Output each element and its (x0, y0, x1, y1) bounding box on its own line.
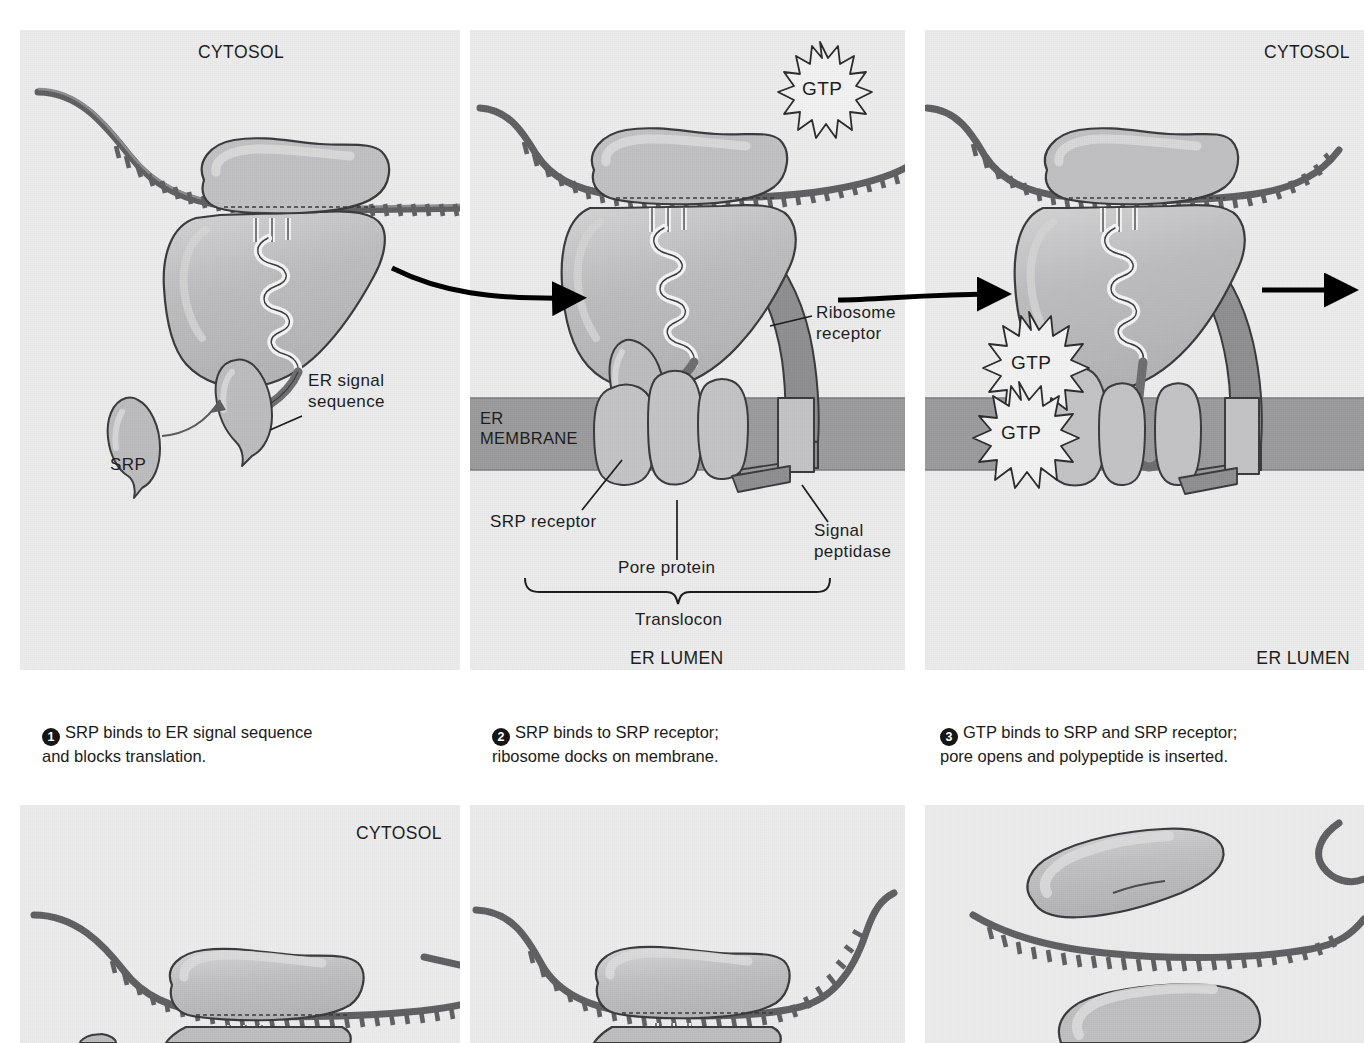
panel-step-5 (470, 805, 905, 1043)
panel-3-er-lumen-label: ER LUMEN (1256, 648, 1350, 669)
mrna-fragment (424, 957, 460, 965)
caption-text-2: SRP binds to SRP receptor; ribosome dock… (492, 723, 719, 765)
panel-1-graphic (20, 30, 460, 670)
ribosome-large-subunit-partial (594, 1027, 781, 1043)
panel-4-cytosol-label: CYTOSOL (356, 823, 442, 844)
ribosome-small-subunit (170, 949, 364, 1020)
panel-3-graphic (925, 30, 1364, 670)
translocon-bracket (525, 578, 830, 604)
srp-binding-arrow (162, 400, 226, 436)
label-srp: SRP (110, 455, 146, 475)
label-ribosome-receptor: Ribosome receptor (816, 302, 896, 345)
srp-free-partial (80, 1034, 116, 1043)
label-er-signal-sequence: ER signal sequence (308, 370, 385, 413)
ribosome-small-subunit (202, 138, 389, 213)
srp-free (108, 397, 160, 498)
ribosome-large-subunit-detached (1059, 984, 1260, 1043)
panel-step-6 (925, 805, 1364, 1043)
panel-2-er-membrane-label: ER MEMBRANE (480, 408, 578, 448)
caption-step-3: 3GTP binds to SRP and SRP receptor; pore… (940, 700, 1360, 768)
mrna-loop (1319, 823, 1364, 882)
panel-3-cytosol-label: CYTOSOL (1264, 42, 1350, 63)
step-number-3: 3 (940, 728, 958, 746)
mrna-strand (973, 915, 1364, 971)
panel-6-graphic (925, 805, 1364, 1043)
ribosome-large-subunit-partial (166, 1027, 351, 1043)
label-pore-protein: Pore protein (618, 558, 715, 578)
srp-receptor-shape (594, 385, 656, 485)
panel-step-3: CYTOSOL ER LUMEN GTP GTP (925, 30, 1364, 670)
step-number-2: 2 (492, 728, 510, 746)
label-srp-receptor: SRP receptor (490, 512, 597, 532)
panel-2-er-lumen-label: ER LUMEN (630, 648, 724, 669)
pore-protein-shapes (648, 371, 748, 485)
caption-step-1: 1SRP binds to ER signal sequence and blo… (42, 700, 442, 768)
panel-step-4: CYTOSOL (20, 805, 460, 1043)
caption-step-2: 2SRP binds to SRP receptor; ribosome doc… (492, 700, 892, 768)
panel-step-1: CYTOSOL ER signal sequence SRP (20, 30, 460, 670)
caption-text-1: SRP binds to ER signal sequence and bloc… (42, 723, 312, 765)
caption-text-3: GTP binds to SRP and SRP receptor; pore … (940, 723, 1237, 765)
gtp-label-upper: GTP (1011, 352, 1051, 374)
label-translocon: Translocon (635, 610, 722, 630)
gtp-label-lower: GTP (1001, 422, 1041, 444)
label-signal-peptidase: Signal peptidase (814, 520, 891, 563)
figure-root: CYTOSOL ER signal sequence SRP (0, 0, 1364, 1043)
panel-step-2: ER MEMBRANE Ribosome receptor SRP recept… (470, 30, 905, 670)
ribosome-small-subunit (1045, 128, 1238, 204)
leader-er-signal (270, 416, 302, 430)
ribosome-small-subunit (592, 128, 787, 204)
gtp-label-panel-2: GTP (802, 78, 842, 100)
ribosome-small-subunit-detached (1027, 829, 1223, 918)
panel-5-graphic (470, 805, 905, 1043)
step-number-1: 1 (42, 728, 60, 746)
ribosome-small-subunit (596, 947, 790, 1018)
panel-1-cytosol-label: CYTOSOL (198, 42, 284, 63)
